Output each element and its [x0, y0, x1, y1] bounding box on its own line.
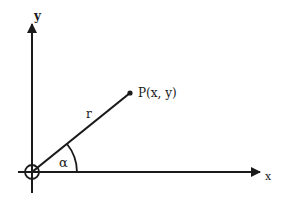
y-axis-label: y: [33, 9, 42, 23]
polar-diagram: y x P(x, y) r α: [0, 0, 285, 204]
radius-line: [32, 93, 130, 172]
x-axis-label: x: [265, 170, 272, 183]
angle-arc: [67, 144, 77, 172]
point-label: P(x, y): [138, 86, 177, 100]
angle-label: α: [59, 155, 68, 170]
point-p: [127, 90, 132, 95]
radius-label: r: [86, 107, 92, 121]
